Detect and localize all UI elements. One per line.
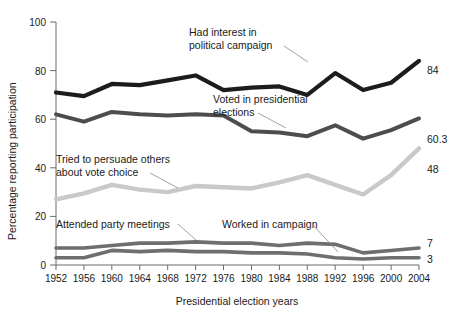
end-label-meetings: 7 [427,237,433,249]
end-label-persuade: 48 [427,163,439,175]
y-tick-label-60: 60 [35,114,47,125]
ann-meetings-label: Attended party meetings [56,218,170,230]
y-tick-label-20: 20 [35,211,47,222]
chart-figure: 0 20 40 60 80 100 Percentage reporting p… [0,0,466,321]
ann-persuade-line2: about vote choice [56,166,138,178]
y-tick-label-40: 40 [35,163,47,174]
x-tick-label-1964: 1964 [129,273,152,284]
y-tick-label-0: 0 [40,260,46,271]
y-axis-title: Percentage reporting participation [6,82,18,240]
x-tick-label-1960: 1960 [101,273,124,284]
y-tick-label-80: 80 [35,66,47,77]
x-tick-label-1996: 1996 [352,273,375,284]
x-tick-label-1992: 1992 [324,273,347,284]
x-tick-label-1988: 1988 [296,273,319,284]
end-label-worked: 3 [427,253,433,265]
x-tick-label-1976: 1976 [212,273,235,284]
x-tick-label-2000: 2000 [380,273,403,284]
caption-cutoff-strip [0,311,466,321]
line-chart-canvas: 0 20 40 60 80 100 Percentage reporting p… [0,0,466,321]
ann-voted-line1: Voted in presidential [213,93,308,105]
end-label-interest: 84 [427,64,439,76]
ann-interest-line2: political campaign [189,39,273,51]
x-tick-label-1972: 1972 [184,273,207,284]
x-tick-label-2004: 2004 [408,273,431,284]
ann-worked-label: Worked in campaign [222,218,318,230]
x-tick-label-1968: 1968 [157,273,180,284]
x-tick-label-1984: 1984 [268,273,291,284]
x-tick-label-1980: 1980 [240,273,263,284]
y-tick-label-100: 100 [29,17,46,28]
x-tick-label-1956: 1956 [73,273,96,284]
ann-interest-line1: Had interest in [189,26,257,38]
x-tick-label-1952: 1952 [45,273,68,284]
end-label-voted: 60.3 [427,133,448,145]
ann-persuade-line1: Tried to persuade others [56,153,170,165]
ann-voted-line2: elections [213,106,254,118]
x-axis-title: Presidential election years [176,295,299,307]
